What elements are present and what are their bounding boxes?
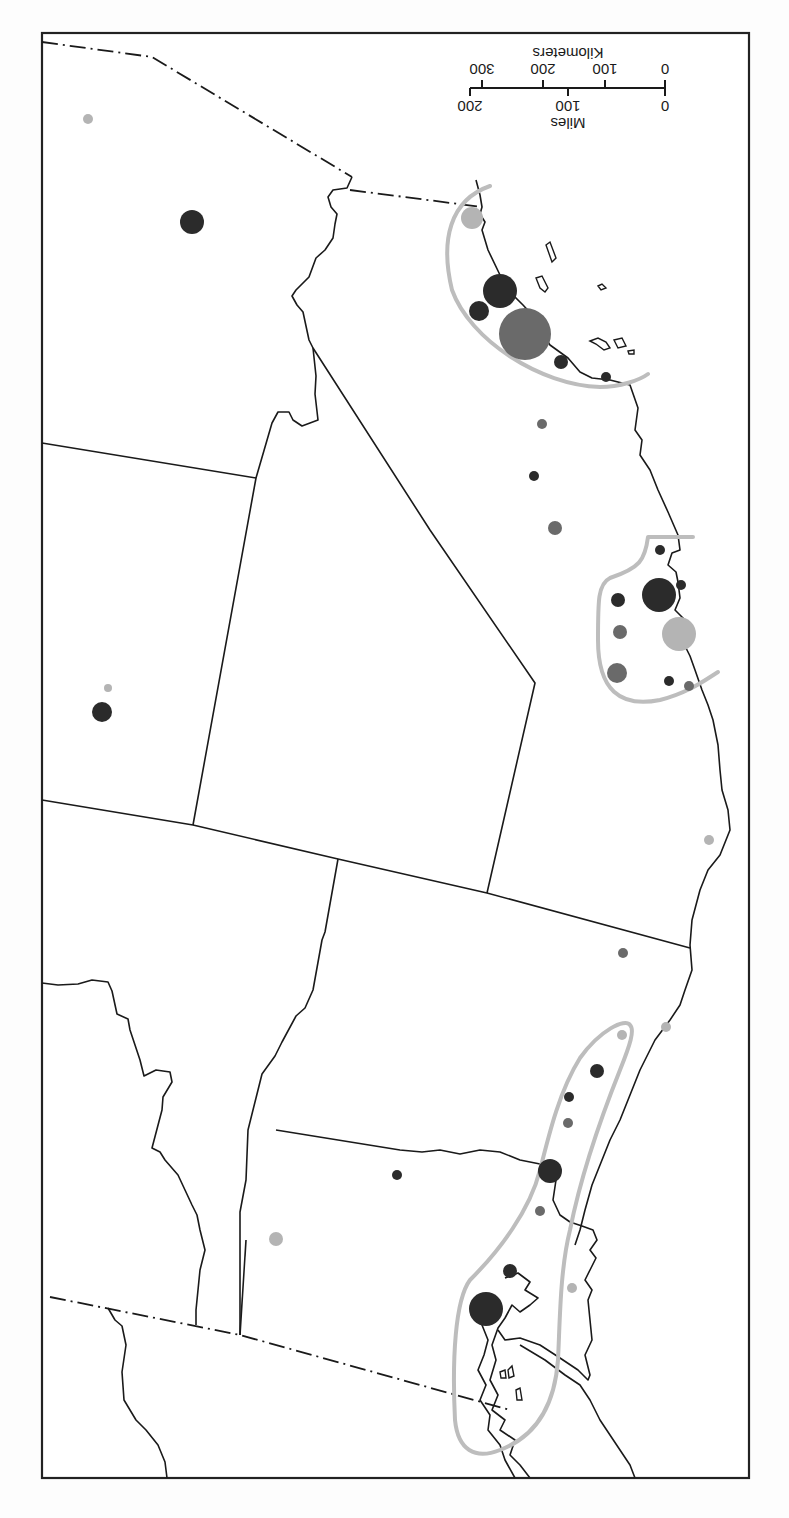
scale-km-tick-0: 0: [661, 61, 669, 78]
symbol-circle-dark: [469, 301, 489, 321]
symbol-circle-medium: [618, 948, 628, 958]
symbol-circle-dark: [642, 578, 676, 612]
scale-km-label: Kilometers: [533, 45, 604, 62]
scale-miles-label: Miles: [550, 115, 585, 132]
symbol-circle-medium: [684, 681, 694, 691]
symbol-circle-dark: [503, 1264, 517, 1278]
symbol-circle-dark: [180, 210, 204, 234]
symbol-circle-light: [83, 114, 93, 124]
symbol-circle-dark: [529, 471, 539, 481]
symbol-circle-dark: [564, 1092, 574, 1102]
symbol-circle-dark: [590, 1064, 604, 1078]
symbol-circle-medium: [613, 625, 627, 639]
symbol-circle-light: [269, 1232, 283, 1246]
scale-miles-tick-200: 200: [457, 98, 482, 115]
symbol-circle-light: [567, 1283, 577, 1293]
symbol-circle-light: [704, 835, 714, 845]
island-6: [628, 350, 634, 354]
symbol-circle-dark: [655, 545, 665, 555]
scale-miles-tick-0: 0: [661, 98, 669, 115]
symbol-circle-dark: [611, 593, 625, 607]
symbol-circle-light: [461, 207, 483, 229]
symbol-circle-medium: [607, 663, 627, 683]
scale-miles-tick-100: 100: [555, 98, 580, 115]
symbol-circle-light: [617, 1030, 627, 1040]
symbol-circle-light: [104, 684, 112, 692]
symbol-circle-medium: [548, 521, 562, 535]
symbol-circle-medium: [499, 308, 551, 360]
symbol-circle-medium: [537, 419, 547, 429]
island-7: [500, 1370, 506, 1378]
symbol-circle-dark: [601, 372, 611, 382]
symbol-circle-dark: [538, 1159, 562, 1183]
map-frame: [42, 33, 749, 1478]
symbol-circle-light: [662, 617, 696, 651]
map-canvas: 0 100 200 Miles 0 100 200 300 Kilometers: [0, 0, 789, 1518]
symbol-circle-dark: [392, 1170, 402, 1180]
scale-km-tick-100: 100: [592, 61, 617, 78]
symbol-circle-dark: [469, 1292, 503, 1326]
symbol-circle-dark: [554, 355, 568, 369]
symbol-circle-dark: [92, 702, 112, 722]
scale-km-tick-300: 300: [469, 61, 494, 78]
symbol-circle-medium: [563, 1118, 573, 1128]
symbol-circle-medium: [535, 1206, 545, 1216]
symbol-circle-dark: [664, 676, 674, 686]
symbol-circle-dark: [483, 274, 517, 308]
scale-km-tick-200: 200: [530, 61, 555, 78]
symbol-circle-light: [661, 1022, 671, 1032]
symbol-circle-dark: [676, 580, 686, 590]
